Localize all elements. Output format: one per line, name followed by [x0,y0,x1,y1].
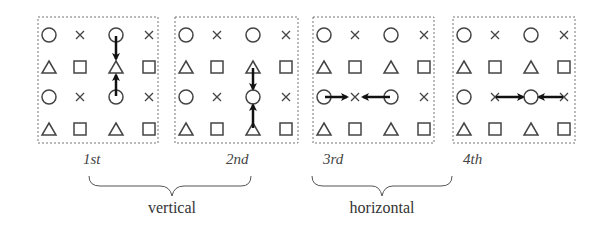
circle-icon [42,90,56,104]
cross-icon [420,93,428,101]
cross-icon [213,93,221,101]
circle-icon [384,28,398,42]
panel-label-3rd: 3rd [322,151,344,167]
square-icon [280,61,292,73]
triangle-icon [384,61,398,73]
triangle-icon [109,61,123,73]
panel-2nd [175,17,298,143]
cross-icon [145,31,153,39]
square-icon [74,123,86,135]
square-icon [558,61,570,73]
circle-icon [179,28,193,42]
panel-label-1st: 1st [83,151,101,167]
triangle-icon [384,123,398,135]
circle-icon [524,90,538,104]
cross-icon [420,31,428,39]
circle-icon [246,90,260,104]
triangle-icon [457,61,471,73]
cross-icon [213,31,221,39]
triangle-icon [317,61,331,73]
panel-3rd [313,17,434,143]
square-icon [418,123,430,135]
triangle-icon [317,123,331,135]
circle-icon [457,90,471,104]
triangle-icon [42,123,56,135]
cross-icon [76,31,84,39]
square-icon [418,61,430,73]
square-icon [280,123,292,135]
cross-icon [145,93,153,101]
group-label-vertical: vertical [148,199,197,216]
square-icon [349,123,361,135]
circle-icon [317,28,331,42]
square-icon [489,61,501,73]
brace-horizontal [312,176,452,196]
cross-icon [282,31,290,39]
cross-icon [282,93,290,101]
panel-4th [453,17,575,143]
triangle-icon [179,61,193,73]
brace-vertical [89,176,251,196]
cross-icon [560,31,568,39]
cross-icon [351,31,359,39]
diagram-canvas: 1st 2nd 3rd 4th vertical horizontal [0,0,602,226]
square-icon [349,61,361,73]
square-icon [211,123,223,135]
square-icon [489,123,501,135]
circle-icon [524,28,538,42]
circle-icon [246,28,260,42]
circle-icon [179,90,193,104]
triangle-icon [109,123,123,135]
triangle-icon [42,61,56,73]
panel-label-2nd: 2nd [226,151,249,167]
triangle-icon [524,123,538,135]
triangle-icon [524,61,538,73]
square-icon [558,123,570,135]
cross-icon [351,93,359,101]
panel-label-4th: 4th [463,151,482,167]
circle-icon [42,28,56,42]
panels-group [38,17,575,143]
square-icon [143,123,155,135]
group-label-horizontal: horizontal [350,199,415,216]
square-icon [211,61,223,73]
square-icon [74,61,86,73]
cross-icon [76,93,84,101]
square-icon [143,61,155,73]
panel-1st [38,17,158,143]
cross-icon [491,31,499,39]
circle-icon [457,28,471,42]
triangle-icon [179,123,193,135]
triangle-icon [457,123,471,135]
